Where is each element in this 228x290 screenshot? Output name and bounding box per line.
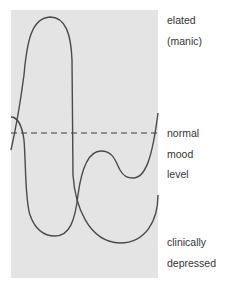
label-mood: mood — [167, 148, 193, 160]
label-clinically: clinically — [167, 236, 206, 248]
label-elated: elated — [167, 14, 196, 26]
label-manic: (manic) — [167, 35, 202, 47]
chart-panel — [11, 10, 158, 278]
label-depressed: depressed — [167, 257, 216, 269]
label-normal: normal — [167, 127, 199, 139]
label-level: level — [167, 168, 189, 180]
